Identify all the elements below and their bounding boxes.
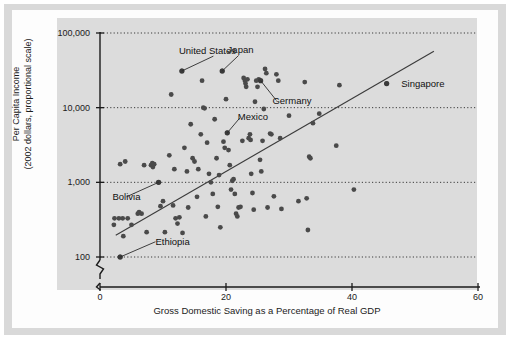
data-point (253, 99, 258, 104)
leader-line-japan (222, 55, 238, 71)
data-point (210, 191, 215, 196)
data-point (111, 222, 116, 227)
data-point (265, 205, 270, 210)
data-point (306, 228, 311, 233)
data-point (255, 84, 260, 89)
leader-line-bolivia (126, 182, 158, 196)
data-point (118, 162, 123, 167)
data-point (250, 191, 255, 196)
data-point (195, 194, 200, 199)
data-point (120, 216, 125, 221)
data-point (192, 159, 197, 164)
leader-line-germany (261, 81, 277, 101)
data-point (259, 169, 264, 174)
data-point (304, 196, 309, 201)
data-point (125, 216, 130, 221)
data-point (232, 191, 237, 196)
data-point (121, 234, 126, 239)
data-point (274, 72, 279, 77)
data-point (208, 180, 213, 185)
data-point (186, 205, 191, 210)
data-point (188, 122, 193, 127)
data-point (296, 199, 301, 204)
data-point (263, 67, 268, 72)
data-point (177, 215, 182, 220)
data-point (129, 222, 134, 227)
data-point (245, 77, 250, 82)
data-point (278, 136, 283, 141)
data-point (200, 78, 205, 83)
data-point (158, 204, 163, 209)
data-point (221, 139, 226, 144)
data-point (308, 156, 313, 161)
data-point (217, 173, 222, 178)
data-point (260, 138, 265, 143)
data-point (171, 203, 176, 208)
leader-line-ethiopia (120, 242, 155, 257)
data-point (214, 156, 219, 161)
chart-vector-layer (0, 0, 510, 339)
data-point (240, 138, 245, 143)
data-point (139, 211, 144, 216)
data-point (203, 214, 208, 219)
data-point (180, 231, 185, 236)
y-axis-break-icon (97, 260, 104, 279)
data-point (279, 207, 284, 212)
data-point (287, 113, 292, 118)
data-point (182, 145, 187, 150)
data-point (218, 225, 223, 230)
data-point (334, 143, 339, 148)
data-point (172, 167, 177, 172)
data-point (198, 132, 203, 137)
data-point (248, 138, 253, 143)
data-point (224, 97, 229, 102)
data-point (226, 148, 231, 153)
data-point (238, 204, 243, 209)
data-point (311, 121, 316, 126)
figure-root: Per Capita Income (2002 dollars, proport… (0, 0, 510, 339)
data-point (251, 207, 256, 212)
data-point (229, 187, 234, 192)
data-point (196, 167, 201, 172)
data-point (337, 83, 342, 88)
trend-line (116, 51, 434, 235)
data-point (207, 171, 212, 176)
data-point (144, 230, 149, 235)
data-point (152, 162, 157, 167)
data-point (276, 78, 281, 83)
data-point (227, 163, 232, 168)
leader-line-united-states (182, 56, 214, 71)
data-point (185, 169, 190, 174)
data-point (161, 199, 166, 204)
data-point (249, 171, 254, 176)
data-point (269, 132, 274, 137)
data-point (302, 80, 307, 85)
data-point (167, 153, 172, 158)
annotated-point-singapore (384, 81, 389, 86)
data-point (351, 187, 356, 192)
data-point (317, 111, 322, 116)
scatter-chart: Per Capita Income (2002 dollars, proport… (0, 0, 510, 339)
leader-line-mexico (227, 118, 240, 133)
data-point (261, 107, 266, 112)
data-point (215, 204, 220, 209)
data-point (123, 159, 128, 164)
data-point (271, 194, 276, 199)
data-point (244, 84, 249, 89)
data-point (162, 230, 167, 235)
data-point (248, 132, 253, 137)
data-point (205, 140, 210, 145)
annotated-point-bolivia (156, 180, 161, 185)
data-point (258, 157, 263, 162)
data-point (231, 177, 236, 182)
data-point (202, 106, 207, 111)
data-point (175, 221, 180, 226)
data-point (212, 117, 217, 122)
data-point (142, 163, 147, 168)
data-point (235, 214, 240, 219)
data-point (169, 92, 174, 97)
data-point (264, 71, 269, 76)
data-point (112, 216, 117, 221)
